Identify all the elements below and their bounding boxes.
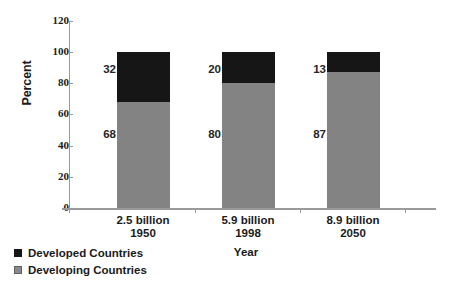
x-tick-mark-1 xyxy=(195,208,196,213)
y-tick-label-60: 60 xyxy=(43,108,69,119)
bar-value-developing-1998: 80 xyxy=(201,129,221,141)
bar-group-1998[interactable] xyxy=(222,52,275,208)
y-tick-label-100: 100 xyxy=(43,46,69,57)
category-population-2050: 8.9 billion xyxy=(298,214,408,227)
legend-swatch-icon-developed xyxy=(14,249,22,257)
legend: Developed Countries Developing Countries xyxy=(14,245,147,279)
y-tick-mark-80 xyxy=(69,83,73,84)
category-population-1950: 2.5 billion xyxy=(88,214,198,227)
legend-item-developing[interactable]: Developing Countries xyxy=(14,262,147,278)
bar-segment-developing-1950[interactable] xyxy=(117,102,170,208)
legend-label-developing: Developing Countries xyxy=(28,264,147,276)
bar-segment-developing-1998[interactable] xyxy=(222,83,275,208)
legend-label-developed: Developed Countries xyxy=(28,247,143,259)
x-tick-mark-3 xyxy=(405,208,406,213)
bar-value-developing-1950: 68 xyxy=(96,129,116,141)
bar-value-developing-2050: 87 xyxy=(306,129,326,141)
category-label-1998: 5.9 billion 1998 xyxy=(193,214,303,240)
category-year-2050: 2050 xyxy=(298,227,408,240)
stacked-bar-chart: Percent 120 100 80 60 40 20 0 32 68 2.5 … xyxy=(0,0,451,288)
bar-value-developed-1950: 32 xyxy=(96,64,116,76)
y-tick-label-120: 120 xyxy=(43,15,69,26)
bar-value-developed-2050: 13 xyxy=(306,64,326,76)
legend-swatch-icon-developing xyxy=(14,266,22,274)
category-population-1998: 5.9 billion xyxy=(193,214,303,227)
y-axis-title: Percent xyxy=(20,38,34,128)
x-tick-mark-2 xyxy=(300,208,301,213)
bar-group-1950[interactable] xyxy=(117,52,170,208)
category-label-1950: 2.5 billion 1950 xyxy=(88,214,198,240)
y-tick-label-20: 20 xyxy=(43,171,69,182)
bar-value-developed-1998: 20 xyxy=(201,64,221,76)
x-axis-title: Year xyxy=(216,246,276,258)
y-tick-mark-60 xyxy=(69,114,73,115)
bar-group-2050[interactable] xyxy=(327,52,380,208)
bar-segment-developed-2050[interactable] xyxy=(327,52,380,72)
legend-item-developed[interactable]: Developed Countries xyxy=(14,245,147,261)
category-year-1950: 1950 xyxy=(88,227,198,240)
y-tick-mark-120 xyxy=(69,21,73,22)
category-label-2050: 8.9 billion 2050 xyxy=(298,214,408,240)
y-tick-label-40: 40 xyxy=(43,140,69,151)
bar-segment-developed-1998[interactable] xyxy=(222,52,275,83)
x-tick-mark-start xyxy=(69,208,70,213)
y-tick-mark-20 xyxy=(69,177,73,178)
y-tick-mark-40 xyxy=(69,146,73,147)
y-tick-mark-100 xyxy=(69,52,73,53)
y-tick-label-80: 80 xyxy=(43,77,69,88)
bar-segment-developing-2050[interactable] xyxy=(327,72,380,208)
category-year-1998: 1998 xyxy=(193,227,303,240)
bar-segment-developed-1950[interactable] xyxy=(117,52,170,102)
x-axis-line xyxy=(62,208,436,210)
